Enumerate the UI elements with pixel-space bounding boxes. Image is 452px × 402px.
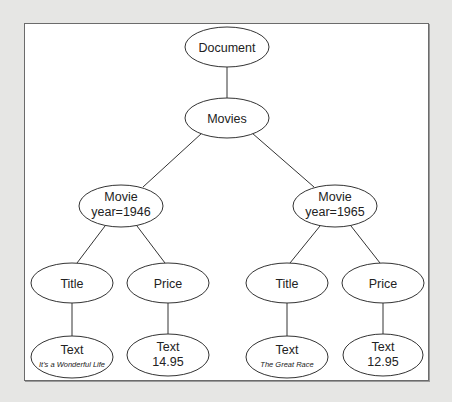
node-text-price-1495-label: Text bbox=[157, 340, 180, 354]
node-price-1965[interactable]: Price bbox=[342, 263, 424, 303]
node-text-great-race-label: Text bbox=[276, 343, 299, 357]
node-movie-1965[interactable]: Movie year=1965 bbox=[293, 185, 377, 227]
node-text-wonderful-life[interactable]: Text It's a Wonderful Life bbox=[31, 336, 113, 378]
node-movie-1946-label: Movie bbox=[104, 190, 137, 204]
edge-movie2-title2 bbox=[290, 226, 320, 263]
node-text-great-race-value: The Great Race bbox=[260, 360, 313, 369]
node-movie-1965-label: Movie bbox=[318, 190, 351, 204]
node-price-1965-label: Price bbox=[369, 277, 398, 291]
node-price-1946-label: Price bbox=[154, 277, 183, 291]
node-text-price-1495-value: 14.95 bbox=[152, 355, 183, 369]
node-movie-1946[interactable]: Movie year=1946 bbox=[79, 185, 163, 227]
node-title-1965[interactable]: Title bbox=[246, 263, 328, 303]
node-document-label: Document bbox=[199, 41, 256, 55]
edge-movie1-price1 bbox=[137, 226, 165, 263]
node-text-price-1295-value: 12.95 bbox=[367, 355, 398, 369]
node-title-1946[interactable]: Title bbox=[31, 263, 113, 303]
node-text-price-1495[interactable]: Text 14.95 bbox=[127, 334, 209, 376]
node-document[interactable]: Document bbox=[185, 27, 269, 67]
node-movies-label: Movies bbox=[207, 112, 247, 126]
node-text-great-race[interactable]: Text The Great Race bbox=[246, 336, 328, 378]
edge-movie1-title1 bbox=[77, 226, 105, 263]
dom-tree-diagram: Document Movies Movie year=1946 Movie ye… bbox=[0, 0, 452, 402]
node-text-wonderful-life-label: Text bbox=[61, 343, 84, 357]
edge-movies-movie1 bbox=[143, 133, 202, 187]
edge-movie2-price2 bbox=[351, 226, 380, 263]
edge-movies-movie2 bbox=[252, 133, 314, 187]
node-title-1946-label: Title bbox=[60, 277, 83, 291]
node-price-1946[interactable]: Price bbox=[127, 263, 209, 303]
node-text-price-1295[interactable]: Text 12.95 bbox=[343, 334, 423, 376]
node-text-price-1295-label: Text bbox=[372, 340, 395, 354]
node-text-wonderful-life-value: It's a Wonderful Life bbox=[39, 360, 105, 369]
node-title-1965-label: Title bbox=[275, 277, 298, 291]
node-movie-1965-attr: year=1965 bbox=[305, 205, 364, 219]
node-movie-1946-attr: year=1946 bbox=[91, 205, 150, 219]
node-movies[interactable]: Movies bbox=[185, 98, 269, 138]
